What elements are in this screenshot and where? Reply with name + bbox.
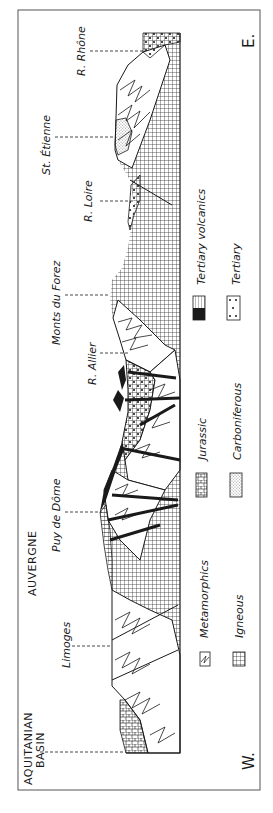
label-auvergne: AUVERGNE (26, 531, 39, 596)
legend-item-igneous: Igneous (233, 594, 246, 666)
label-r-allier: R. Allier (86, 341, 99, 385)
geological-cross-section-figure: R. Rhône St. Étienne R. Loire Monts du F… (0, 0, 273, 813)
legend-label: Jurassic (196, 418, 209, 462)
place-labels: R. Rhône St. Étienne R. Loire Monts du F… (22, 26, 99, 785)
legend-label: Carboniferous (231, 382, 244, 460)
legend-label: Igneous (233, 594, 246, 638)
section-body (100, 33, 180, 753)
legend-label: Tertiary (230, 243, 243, 285)
legend-item-jurassic: Jurassic (196, 418, 209, 497)
carboniferous-swatch-icon (230, 473, 242, 497)
label-r-rhone: R. Rhône (75, 26, 88, 76)
label-basin: BASIN (34, 732, 47, 768)
legend: Metamorphics Igneous Jurassic Carbonifer… (193, 189, 246, 666)
legend-item-carboniferous: Carboniferous (230, 382, 244, 497)
label-east: E. (240, 34, 258, 48)
cross-section-svg: R. Rhône St. Étienne R. Loire Monts du F… (0, 0, 273, 813)
igneous-swatch-icon (233, 652, 245, 666)
label-west: W. (240, 752, 258, 770)
label-puy-de-dome: Puy de Dôme (50, 478, 63, 552)
legend-label: Metamorphics (198, 560, 211, 638)
label-monts-du-forez: Monts du Forez (50, 260, 63, 345)
legend-item-metamorphics: Metamorphics (198, 560, 211, 666)
legend-item-tertiary: Tertiary (227, 243, 243, 320)
jurassic-swatch-icon (196, 473, 207, 497)
label-st-etienne: St. Étienne (40, 115, 53, 175)
legend-label: Tertiary volcanics (195, 189, 208, 285)
label-limoges: Limoges (60, 622, 73, 668)
label-r-loire: R. Loire (82, 180, 95, 222)
legend-item-tertiary-volcanics: Tertiary volcanics (193, 189, 208, 320)
